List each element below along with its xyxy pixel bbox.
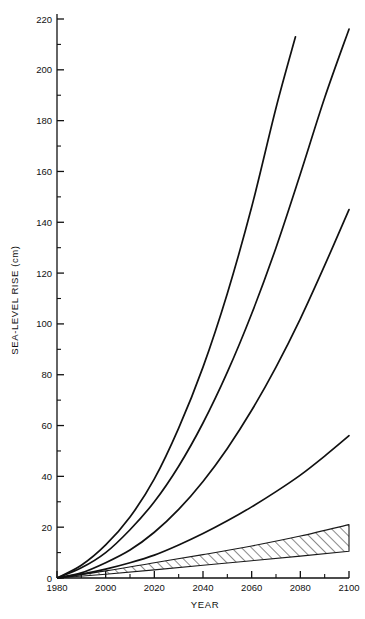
curve-high-scenario-lower xyxy=(57,29,349,578)
y-tick-label: 40 xyxy=(41,471,52,482)
y-tick-label: 140 xyxy=(36,217,52,228)
chart-canvas: 0204060801001201401601802002201980200020… xyxy=(0,0,365,619)
y-tick-label: 120 xyxy=(36,268,52,279)
y-axis-title: SEA-LEVEL RISE (cm) xyxy=(9,245,20,354)
curve-high-scenario-upper xyxy=(57,37,295,578)
y-tick-label: 200 xyxy=(36,64,52,75)
x-axis-title: YEAR xyxy=(191,599,219,610)
x-tick-label: 2000 xyxy=(95,582,116,593)
y-tick-label: 60 xyxy=(41,420,52,431)
sea-level-rise-chart: 0204060801001201401601802002201980200020… xyxy=(0,0,365,619)
x-tick-label: 2060 xyxy=(241,582,262,593)
scenario-curves xyxy=(57,29,349,578)
y-tick-label: 20 xyxy=(41,522,52,533)
y-tick-label: 80 xyxy=(41,369,52,380)
x-tick-label: 1980 xyxy=(46,582,67,593)
axes xyxy=(57,14,349,578)
y-tick-label: 160 xyxy=(36,166,52,177)
y-tick-label: 180 xyxy=(36,115,52,126)
curve-mid-scenario xyxy=(57,210,349,578)
x-tick-label: 2040 xyxy=(192,582,213,593)
x-tick-label: 2020 xyxy=(144,582,165,593)
y-tick-label: 220 xyxy=(36,14,52,25)
x-tick-label: 2080 xyxy=(290,582,311,593)
x-tick-label: 2100 xyxy=(338,582,359,593)
axis-tick-labels: 0204060801001201401601802002201980200020… xyxy=(36,14,359,594)
y-tick-label: 100 xyxy=(36,318,52,329)
